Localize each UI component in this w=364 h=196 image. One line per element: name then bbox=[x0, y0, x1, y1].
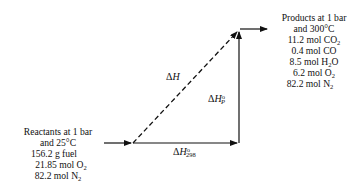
products-conditions: and 300°C bbox=[271, 23, 357, 34]
products-title: Products at 1 bar bbox=[271, 12, 357, 23]
products-n2: 82.2 mol N2 bbox=[263, 78, 357, 89]
products-o2: 6.2 mol O2 bbox=[271, 67, 357, 78]
products-co: 0.4 mol CO bbox=[271, 45, 357, 56]
reactants-n2: 82.2 mol N2 bbox=[14, 170, 102, 181]
delta-h-label: ΔH bbox=[166, 71, 180, 82]
products-h2o: 8.5 mol H2O bbox=[271, 56, 357, 67]
delta-h298-label: ΔHo298 bbox=[173, 146, 196, 157]
reactants-conditions: and 25°C bbox=[14, 137, 102, 148]
products-block: Products at 1 bar and 300°C 11.2 mol CO2… bbox=[271, 12, 357, 89]
reactants-o2: 21.85 mol O2 bbox=[20, 159, 102, 170]
delta-h-dashed-arrow bbox=[133, 32, 237, 143]
reactants-fuel: 156.2 g fuel bbox=[6, 148, 102, 159]
delta-hp-label: ΔHoP bbox=[208, 93, 225, 104]
products-co2: 11.2 mol CO2 bbox=[271, 34, 357, 45]
reactants-title: Reactants at 1 bar bbox=[14, 126, 102, 137]
reactants-block: Reactants at 1 bar and 25°C 156.2 g fuel… bbox=[14, 126, 102, 181]
